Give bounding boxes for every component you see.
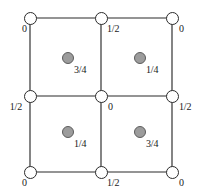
node-height-label-top-right: 0 <box>179 24 184 34</box>
open-circle-node-mid-left <box>24 90 37 103</box>
open-circle-node-bottom-center <box>95 166 108 179</box>
open-circle-node-top-center <box>95 12 108 25</box>
filled-gray-dot-lower-right <box>134 126 146 138</box>
node-height-label-mid-left: 1/2 <box>10 102 22 112</box>
node-height-label-top-left: 0 <box>22 24 27 34</box>
dot-height-label-lower-right: 3/4 <box>146 139 158 149</box>
filled-gray-dot-upper-right <box>134 52 146 64</box>
open-circle-node-top-right <box>166 12 179 25</box>
open-circle-node-mid-right <box>166 90 179 103</box>
dot-height-label-upper-right: 1/4 <box>146 65 158 75</box>
node-height-label-bottom-center: 1/2 <box>107 178 119 188</box>
node-height-label-mid-center: 0 <box>108 102 113 112</box>
dot-height-label-lower-left: 1/4 <box>74 139 86 149</box>
node-height-label-mid-right: 1/2 <box>179 102 191 112</box>
dot-height-label-upper-left: 3/4 <box>74 65 86 75</box>
open-circle-node-bottom-right <box>166 166 179 179</box>
node-height-label-top-center: 1/2 <box>107 24 119 34</box>
open-circle-node-mid-center <box>95 90 108 103</box>
space-group-diagram: 01/201/201/201/203/41/41/43/4 <box>0 0 201 195</box>
node-height-label-bottom-left: 0 <box>22 178 27 188</box>
node-height-label-bottom-right: 0 <box>179 178 184 188</box>
filled-gray-dot-lower-left <box>62 126 74 138</box>
filled-gray-dot-upper-left <box>62 52 74 64</box>
